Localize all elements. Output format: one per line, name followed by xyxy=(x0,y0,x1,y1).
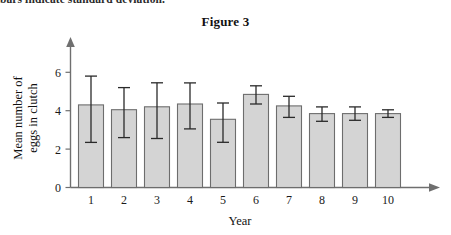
bar-year-7[interactable] xyxy=(277,106,302,188)
bar-year-8[interactable] xyxy=(310,114,335,188)
y-axis-title-line2: eggs in clutch xyxy=(26,83,40,153)
x-tick-label-3: 3 xyxy=(154,193,160,207)
bar-year-9[interactable] xyxy=(343,114,368,188)
x-tick-label-9: 9 xyxy=(352,193,358,207)
y-tick-label-2: 2 xyxy=(55,143,61,157)
y-tick-label-0: 0 xyxy=(55,181,61,195)
y-axis-title-line1: Mean number of xyxy=(11,76,25,160)
y-axis-title: Mean number of eggs in clutch xyxy=(11,76,40,160)
bar-year-10[interactable] xyxy=(376,114,401,188)
y-tick-label-4: 4 xyxy=(55,104,61,118)
bar-year-6[interactable] xyxy=(244,94,269,187)
x-tick-label-1: 1 xyxy=(88,193,94,207)
bar-chart: 0 2 4 6 Mean number of eggs in clutch xyxy=(0,0,451,235)
x-tick-label-8: 8 xyxy=(319,193,325,207)
y-axis xyxy=(66,37,75,188)
x-tick-label-4: 4 xyxy=(187,193,193,207)
x-tick-label-6: 6 xyxy=(253,193,259,207)
x-axis-title: Year xyxy=(228,214,252,228)
x-tick-label-7: 7 xyxy=(286,193,292,207)
y-tick-label-6: 6 xyxy=(55,66,61,80)
bars-group xyxy=(79,94,401,187)
x-tick-label-10: 10 xyxy=(382,193,394,207)
x-tick-label-2: 2 xyxy=(121,193,127,207)
y-axis-ticks: 0 2 4 6 xyxy=(55,66,71,195)
x-tick-label-5: 5 xyxy=(220,193,226,207)
x-axis-ticks: 1 2 3 4 5 6 7 8 9 10 xyxy=(88,193,394,207)
